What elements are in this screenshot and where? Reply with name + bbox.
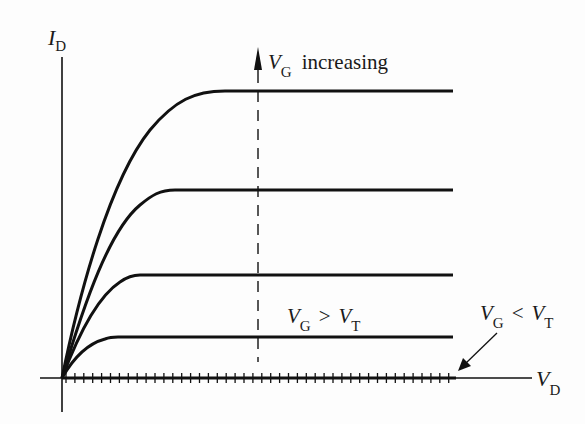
vg-above-vt-label: VG>VT <box>287 304 361 334</box>
mosfet-characteristics-diagram: ID VD VGincreasing VG>VT VG<VT <box>0 0 585 424</box>
diagram-canvas: ID VD VGincreasing VG>VT VG<VT <box>0 0 585 424</box>
vg-below-vt-label: VG<VT <box>480 301 554 331</box>
arrow-up-icon <box>254 47 262 70</box>
below-threshold-pointer <box>465 333 497 364</box>
x-axis-label: VD <box>536 366 560 398</box>
y-axis-label: ID <box>47 25 66 54</box>
vg-increasing-label: VGincreasing <box>268 50 388 80</box>
